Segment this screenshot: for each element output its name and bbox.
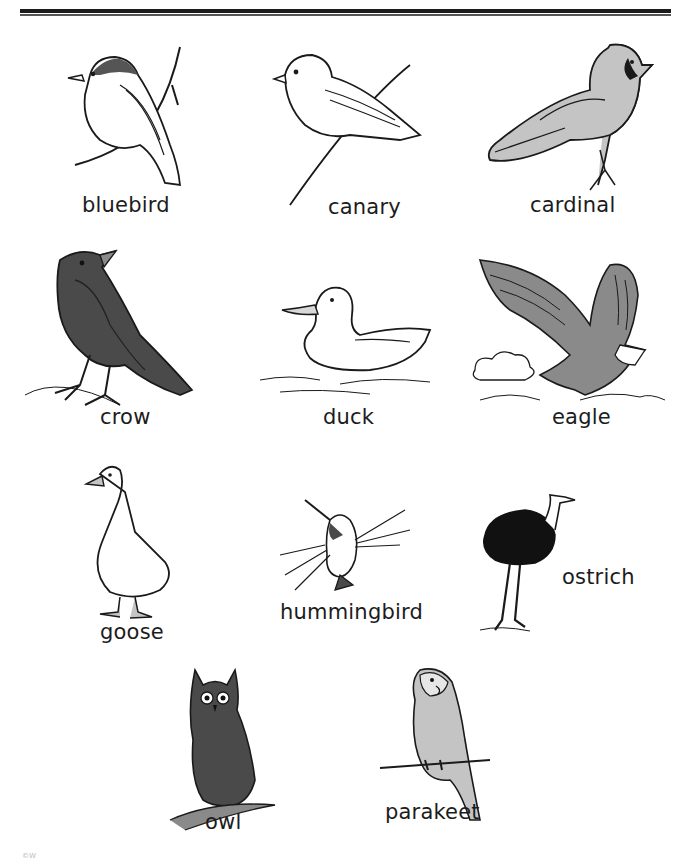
bird-eagle: eagle (470, 255, 670, 415)
label-canary: canary (328, 195, 401, 219)
canary-illustration-icon (270, 45, 430, 205)
label-eagle: eagle (552, 405, 611, 429)
bird-duck: duck (260, 280, 440, 420)
header-rule-thin (20, 14, 671, 16)
duck-illustration-icon (260, 280, 440, 420)
bird-canary: canary (270, 45, 430, 205)
bird-bluebird: bluebird (60, 45, 200, 195)
footer-mark: ©W (22, 852, 36, 860)
bird-ostrich: ostrich (480, 495, 670, 655)
label-bluebird: bluebird (82, 193, 170, 217)
bird-goose: goose (80, 462, 190, 652)
header-rule-thick (20, 9, 671, 13)
label-crow: crow (100, 405, 151, 429)
cardinal-illustration-icon (480, 40, 660, 200)
label-cardinal: cardinal (530, 193, 615, 217)
bird-cardinal: cardinal (480, 40, 660, 200)
label-hummingbird: hummingbird (280, 600, 423, 624)
bird-crow: crow (20, 245, 200, 415)
label-goose: goose (100, 620, 164, 644)
label-owl: owl (205, 810, 241, 834)
bluebird-illustration-icon (60, 45, 200, 195)
bird-parakeet: parakeet (380, 660, 500, 835)
bird-hummingbird: hummingbird (275, 495, 455, 625)
label-duck: duck (323, 405, 374, 429)
bird-owl: owl (165, 660, 295, 850)
label-ostrich: ostrich (562, 565, 635, 589)
crow-illustration-icon (20, 245, 200, 415)
eagle-illustration-icon (470, 255, 670, 415)
label-parakeet: parakeet (385, 800, 480, 824)
